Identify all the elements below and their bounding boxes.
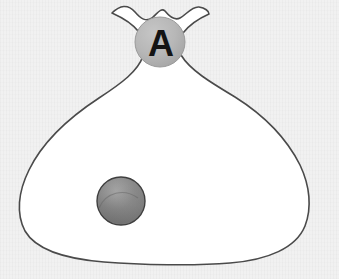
ball-group <box>97 177 145 225</box>
bag-scene: A <box>0 0 339 279</box>
ball-shading <box>98 178 144 224</box>
tie-label: A <box>148 23 174 64</box>
illustration-canvas: A <box>0 0 339 279</box>
tie-group: A <box>135 17 185 67</box>
